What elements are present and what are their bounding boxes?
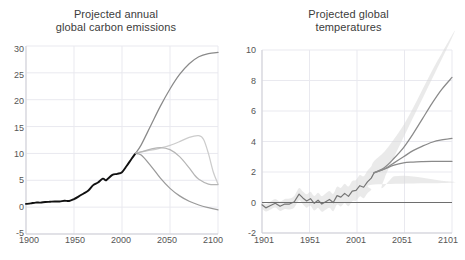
x-tick-label: 1901 (254, 235, 274, 245)
panel-emissions: Projected annual global carbon emissions… (0, 0, 232, 260)
series-line-rcp6.0-mid-late-peak (135, 136, 218, 184)
panel-temperatures-title: Projected global temperatures (232, 8, 465, 34)
plot-area-emissions (26, 46, 218, 234)
x-tick-label: 1950 (65, 235, 85, 245)
y-tick-label: 15 (2, 123, 24, 133)
series-line-historical (26, 153, 135, 203)
series-line-rcp8.5-high (135, 52, 218, 153)
y-tick-label: 2 (234, 167, 256, 177)
plot-area-temperatures (262, 50, 452, 233)
y-tick-label: 8 (234, 76, 256, 86)
climate-projection-figure: Projected annual global carbon emissions… (0, 0, 465, 260)
x-tick-label: 2001 (346, 235, 366, 245)
x-tick-label: 1951 (300, 235, 320, 245)
x-tick-label: 2051 (392, 235, 412, 245)
y-tick-label: 5 (2, 175, 24, 185)
y-tick-label: 10 (234, 45, 256, 55)
uncertainty-band (262, 31, 456, 212)
y-tick-label: -2 (234, 228, 256, 238)
x-tick-label: 2050 (157, 235, 177, 245)
y-tick-label: 20 (2, 96, 24, 106)
panel-emissions-title: Projected annual global carbon emissions (0, 8, 232, 34)
y-tick-label: 10 (2, 149, 24, 159)
y-tick-label: 25 (2, 70, 24, 80)
x-tick-label: 2000 (111, 235, 131, 245)
x-tick-label: 1900 (19, 235, 39, 245)
series-line-rcp2.6-mitigation (135, 153, 218, 209)
y-tick-label: 0 (234, 198, 256, 208)
y-tick-label: 4 (234, 137, 256, 147)
y-tick-label: 0 (2, 202, 24, 212)
panel-temperatures: Projected global temperatures 10 8 6 4 2… (232, 0, 465, 260)
y-tick-label: 6 (234, 106, 256, 116)
y-tick-label: 30 (2, 44, 24, 54)
x-tick-label: 2101 (438, 235, 458, 245)
x-tick-label: 2100 (203, 235, 223, 245)
